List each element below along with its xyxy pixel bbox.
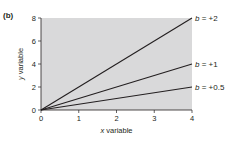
x-tick-label: 4 [190,114,194,123]
line-chart: 0246801234b = +2b = +1b = +0.5x variable… [0,0,235,141]
x-tick-label: 1 [77,114,81,123]
y-axis-title: y variable [16,48,25,81]
y-tick-label: 4 [32,60,36,69]
x-tick-label: 0 [39,114,43,123]
series-label: b = +0.5 [195,83,225,92]
y-tick-label: 8 [32,14,36,23]
y-tick-label: 2 [32,83,36,92]
x-axis-title: x variable [99,126,132,135]
series-label: b = +2 [195,14,218,23]
y-tick-label: 6 [32,37,36,46]
series-label: b = +1 [195,60,218,69]
y-tick-label: 0 [32,106,36,115]
x-tick-label: 3 [152,114,156,123]
x-tick-label: 2 [114,114,118,123]
